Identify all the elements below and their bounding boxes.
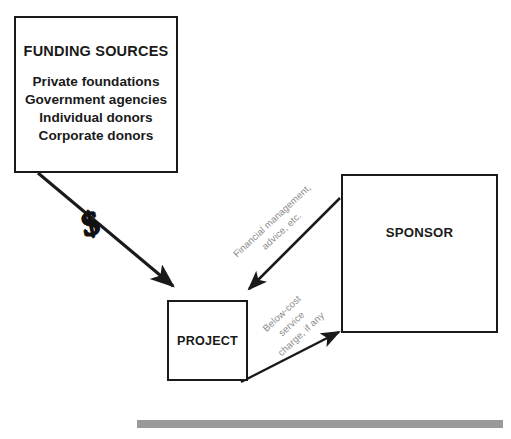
project-node: PROJECT (167, 300, 248, 381)
sponsor-node: SPONSOR (341, 174, 498, 333)
list-item: Private foundations (25, 73, 167, 91)
list-item: Government agencies (25, 91, 167, 109)
project-label: PROJECT (177, 334, 238, 348)
funding-sources-list: Private foundations Government agencies … (25, 73, 167, 145)
sponsor-label: SPONSOR (386, 225, 453, 240)
arrow-funding-to-project (38, 173, 173, 286)
funding-sources-node: FUNDING SOURCES Private foundations Gove… (14, 16, 178, 173)
list-item: Corporate donors (25, 127, 167, 145)
list-item: Individual donors (25, 109, 167, 127)
funding-sources-title: FUNDING SOURCES (24, 44, 169, 60)
fiscal-sponsorship-diagram: FUNDING SOURCES Private foundations Gove… (0, 0, 511, 439)
bottom-divider-bar (137, 420, 503, 428)
